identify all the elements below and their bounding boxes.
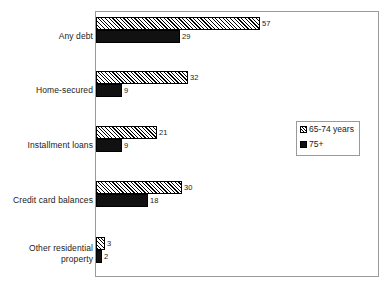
bar-value-75plus-installment-loans: 9 (124, 139, 128, 152)
bar-75plus-home-secured (96, 84, 122, 97)
bar-value-75plus-home-secured: 9 (124, 84, 128, 97)
bar-value-75plus-other-residential-property: 2 (104, 250, 108, 263)
solid-black-swatch-icon (300, 141, 307, 148)
bar-value-75plus-credit-card-balances: 18 (150, 194, 158, 207)
legend-item-75-plus: 75+ (300, 140, 323, 149)
category-label-home-secured: Home-secured (36, 85, 93, 96)
bar-chart: Any debt Home-secured Installment loans … (0, 0, 388, 288)
legend-label-65-74-years: 65-74 years (309, 125, 354, 134)
category-label-other-residential-property: Other residential property (29, 243, 93, 264)
bar-65-74-credit-card-balances (96, 181, 182, 194)
bar-75plus-other-residential-property (96, 250, 102, 263)
bar-value-65-74-home-secured: 32 (190, 71, 198, 84)
legend-item-65-74-years: 65-74 years (300, 125, 354, 134)
bar-75plus-credit-card-balances (96, 194, 148, 207)
category-label-installment-loans: Installment loans (28, 140, 93, 151)
bar-65-74-installment-loans (96, 126, 157, 139)
bar-value-65-74-any-debt: 57 (262, 17, 270, 30)
bar-65-74-any-debt (96, 17, 260, 30)
legend-label-75-plus: 75+ (309, 140, 323, 149)
bar-75plus-installment-loans (96, 139, 122, 152)
category-label-any-debt: Any debt (59, 31, 93, 42)
bar-65-74-other-residential-property (96, 237, 105, 250)
bar-value-65-74-installment-loans: 21 (159, 126, 167, 139)
bar-value-65-74-other-residential-property: 3 (107, 237, 111, 250)
bar-value-75plus-any-debt: 29 (182, 30, 190, 43)
category-label-credit-card-balances: Credit card balances (13, 195, 93, 206)
bar-75plus-any-debt (96, 30, 180, 43)
bar-value-65-74-credit-card-balances: 30 (184, 181, 192, 194)
bar-65-74-home-secured (96, 71, 188, 84)
hatched-swatch-icon (300, 126, 307, 133)
chart-legend: 65-74 years 75+ (296, 121, 360, 156)
